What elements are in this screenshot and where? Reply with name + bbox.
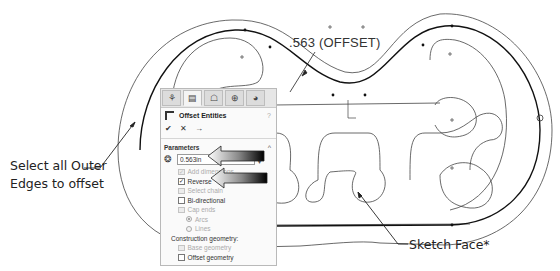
arcs-radio[interactable]	[186, 216, 192, 222]
base-geometry-checkbox[interactable]	[178, 245, 185, 252]
construction-geometry-label: Construction geometry:	[171, 235, 238, 242]
pm-actions: ✔ ✕ →	[161, 122, 276, 134]
offset-geometry-label: Offset geometry	[188, 254, 234, 261]
select-edges-callout: Select all Outer Edges to offset	[10, 157, 107, 193]
option-bi-directional[interactable]: Bi-directional	[161, 196, 276, 206]
cap-type-arcs[interactable]: Arcs	[161, 215, 276, 225]
display-manager-icon: ◕	[253, 93, 258, 103]
option-offset-geometry[interactable]: Offset geometry	[161, 253, 276, 263]
arcs-label: Arcs	[195, 216, 208, 223]
bi-directional-checkbox[interactable]	[178, 197, 185, 204]
distance-pointer-arrow	[207, 145, 265, 167]
tab-feature-manager[interactable]: ⚘	[162, 90, 181, 106]
slot-2	[306, 133, 385, 202]
sketch-canvas[interactable]	[0, 0, 560, 271]
offset-entities-icon	[165, 111, 174, 120]
right-lobe-inner-2	[435, 98, 476, 137]
option-cap-ends[interactable]: Cap ends	[161, 205, 276, 215]
offset-distance-icon: ❂	[164, 155, 173, 164]
lines-label: Lines	[195, 225, 211, 232]
reverse-label: Reverse	[188, 178, 212, 185]
divider	[161, 138, 276, 139]
property-manager-icon: ▤	[188, 93, 197, 103]
select-edges-line1: Select all Outer	[10, 157, 107, 175]
parameters-heading: Parameters	[164, 144, 199, 151]
keep-visible-pin-button[interactable]: →	[195, 124, 203, 133]
reverse-pointer-arrow	[210, 167, 268, 189]
pm-title-bar: Offset Entities ?	[161, 108, 276, 122]
pm-title: Offset Entities	[179, 112, 226, 119]
lines-radio[interactable]	[186, 226, 192, 232]
configuration-manager-icon: ☖	[210, 93, 218, 103]
manager-tabs: ⚘ ▤ ☖ ⊕ ◕	[161, 89, 276, 108]
option-base-geometry[interactable]: Base geometry	[161, 243, 276, 253]
slot-4	[440, 163, 492, 208]
help-icon[interactable]: ?	[267, 112, 271, 119]
sketch-face-callout: Sketch Face*	[409, 236, 490, 254]
select-chain-checkbox[interactable]	[178, 188, 185, 195]
construction-geometry-heading: Construction geometry:	[161, 234, 276, 244]
tab-property-manager[interactable]: ▤	[183, 90, 202, 106]
dimxpert-icon: ⊕	[231, 93, 239, 103]
collapse-icon[interactable]: ^	[268, 144, 271, 151]
add-dimensions-checkbox[interactable]: ✓	[178, 169, 185, 176]
tab-dimxpert-manager[interactable]: ⊕	[225, 90, 244, 106]
reverse-checkbox[interactable]: ✓	[178, 178, 185, 185]
feature-manager-icon: ⚘	[168, 93, 176, 103]
dimension-leader-line	[290, 52, 315, 92]
cap-type-lines[interactable]: Lines	[161, 224, 276, 234]
tab-configuration-manager[interactable]: ☖	[204, 90, 223, 106]
cancel-button[interactable]: ✕	[180, 124, 187, 133]
cap-ends-checkbox[interactable]	[178, 207, 185, 214]
tab-display-manager[interactable]: ◕	[246, 90, 265, 106]
offset-dimension-label[interactable]: .563 (OFFSET)	[289, 35, 380, 50]
rail-top	[274, 103, 440, 105]
ok-button[interactable]: ✔	[165, 124, 172, 133]
bi-directional-label: Bi-directional	[188, 197, 226, 204]
right-lobe-inner-1	[430, 39, 507, 210]
cap-ends-label: Cap ends	[188, 206, 216, 213]
base-geometry-label: Base geometry	[188, 244, 232, 251]
offset-geometry-checkbox[interactable]	[178, 254, 185, 261]
sketch-face-leader	[358, 192, 408, 244]
slot-3	[410, 113, 502, 180]
sketch-origin	[348, 100, 356, 118]
select-edges-line2: Edges to offset	[10, 175, 107, 193]
